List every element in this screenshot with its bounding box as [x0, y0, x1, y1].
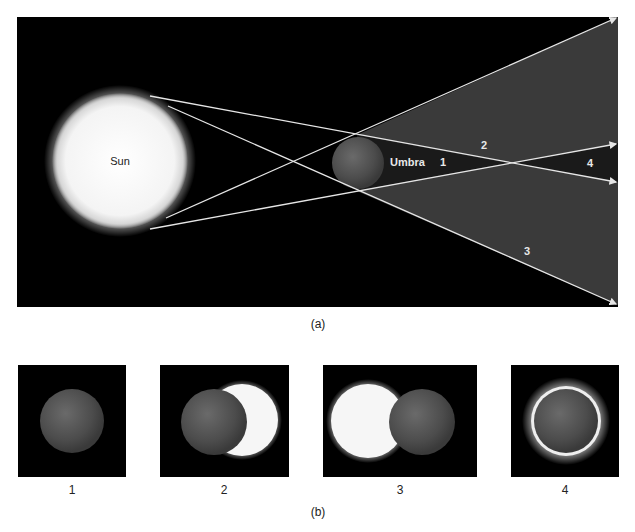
moon-disk	[389, 389, 455, 455]
view-1-total-eclipse	[18, 365, 126, 477]
caption-b: (b)	[300, 505, 336, 519]
moon-disk	[534, 389, 598, 453]
region-3-label: 3	[524, 245, 530, 257]
view-3-label: 3	[390, 483, 410, 497]
sun-label: Sun	[110, 155, 130, 167]
view-3-partial-eclipse	[323, 365, 477, 477]
caption-a: (a)	[300, 317, 336, 331]
moon-disk	[40, 389, 104, 453]
view-4-annular-eclipse	[511, 365, 619, 477]
panel-b	[18, 365, 619, 477]
view-2-partial-eclipse	[160, 365, 289, 477]
eclipse-diagram: Sun Umbra 1 2 3 4	[0, 0, 635, 532]
moon	[332, 137, 384, 189]
umbra-label: Umbra	[390, 156, 426, 168]
view-2-label: 2	[214, 483, 234, 497]
region-1-label: 1	[440, 156, 446, 168]
view-4-label: 4	[555, 483, 575, 497]
region-2-label: 2	[481, 139, 487, 151]
panel-a: Sun Umbra 1 2 3 4	[17, 17, 618, 307]
region-4-label: 4	[587, 157, 594, 169]
moon-disk	[181, 389, 247, 455]
view-1-label: 1	[62, 483, 82, 497]
